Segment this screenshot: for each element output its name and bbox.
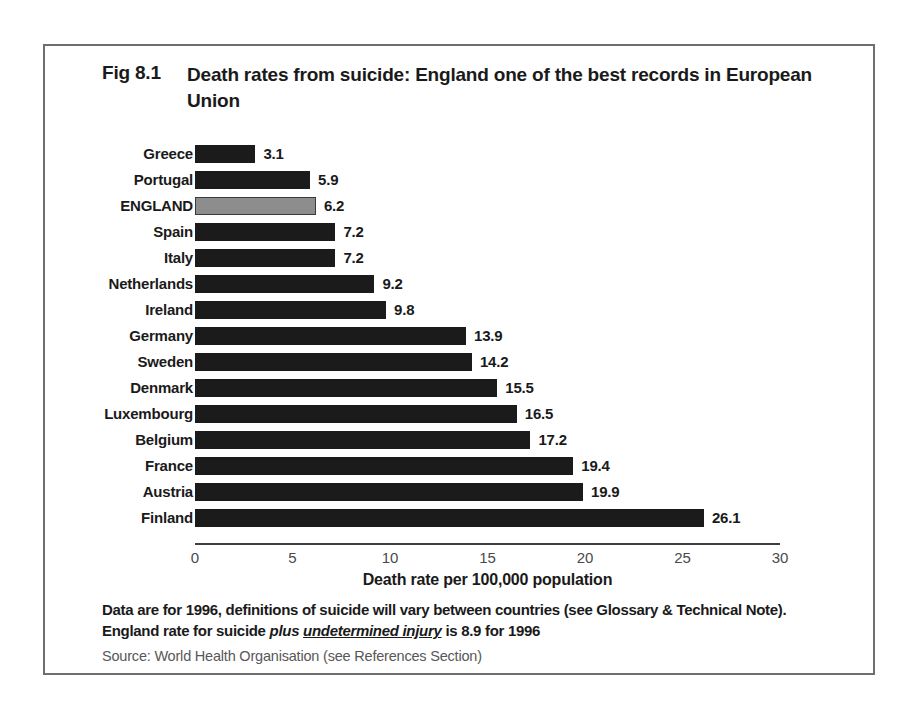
bar-row: Netherlands9.2 <box>45 273 877 299</box>
bar-row: Germany13.9 <box>45 325 877 351</box>
bar-value-label: 15.5 <box>505 379 533 397</box>
bar-value-label: 9.2 <box>382 275 402 293</box>
bar-value-label: 26.1 <box>712 509 740 527</box>
bar[interactable] <box>195 301 386 319</box>
bar-wrapper: 6.2 <box>195 197 344 215</box>
note-line-2-emphasis-underlined: undetermined injury <box>303 622 442 639</box>
note-line-2-part-a: England rate for suicide <box>102 622 270 639</box>
bar-wrapper: 7.2 <box>195 249 364 267</box>
note-line-1: Data are for 1996, definitions of suicid… <box>102 599 872 620</box>
category-label: Denmark <box>0 378 193 398</box>
category-label: Germany <box>0 326 193 346</box>
x-axis-ticks: 051015202530 <box>45 549 877 569</box>
bar-row: ENGLAND6.2 <box>45 195 877 221</box>
bar[interactable] <box>195 223 335 241</box>
bar-wrapper: 15.5 <box>195 379 534 397</box>
figure-title-block: Fig 8.1 Death rates from suicide: Englan… <box>102 62 862 113</box>
note-line-2-part-b: is 8.9 for 1996 <box>442 622 541 639</box>
bar-wrapper: 7.2 <box>195 223 364 241</box>
bar[interactable] <box>195 405 517 423</box>
figure-number: Fig 8.1 <box>102 62 187 84</box>
figure-frame: Fig 8.1 Death rates from suicide: Englan… <box>43 44 875 675</box>
bar-value-label: 17.2 <box>538 431 566 449</box>
source-line: Source: World Health Organisation (see R… <box>102 648 872 664</box>
bar-row: Belgium17.2 <box>45 429 877 455</box>
bar-value-label: 7.2 <box>343 223 363 241</box>
bar-wrapper: 19.9 <box>195 483 619 501</box>
category-label: Belgium <box>0 430 193 450</box>
category-label: Netherlands <box>0 274 193 294</box>
bar-value-label: 5.9 <box>318 171 338 189</box>
bar-row: France19.4 <box>45 455 877 481</box>
bar[interactable] <box>195 457 573 475</box>
category-label: Ireland <box>0 300 193 320</box>
category-label: Austria <box>0 482 193 502</box>
bar-wrapper: 17.2 <box>195 431 567 449</box>
bar-value-label: 9.8 <box>394 301 414 319</box>
figure-title: Death rates from suicide: England one of… <box>187 62 862 113</box>
x-axis-tick-label: 15 <box>479 549 496 566</box>
chart-plot-area: Greece3.1Portugal5.9ENGLAND6.2Spain7.2It… <box>45 142 877 542</box>
category-label: Finland <box>0 508 193 528</box>
bar-row: Austria19.9 <box>45 481 877 507</box>
bar-value-label: 6.2 <box>324 197 344 215</box>
x-axis-tick-label: 25 <box>674 549 691 566</box>
bar-value-label: 19.4 <box>581 457 609 475</box>
bar-wrapper: 26.1 <box>195 509 740 527</box>
bar[interactable] <box>195 197 316 215</box>
bar-value-label: 14.2 <box>480 353 508 371</box>
bar-row: Italy7.2 <box>45 247 877 273</box>
bar-value-label: 3.1 <box>263 145 283 163</box>
bar-wrapper: 13.9 <box>195 327 502 345</box>
category-label: Greece <box>0 144 193 164</box>
note-line-2-emphasis: plus <box>270 622 304 639</box>
bar-value-label: 19.9 <box>591 483 619 501</box>
bar[interactable] <box>195 431 530 449</box>
bar[interactable] <box>195 275 374 293</box>
category-label: France <box>0 456 193 476</box>
bar[interactable] <box>195 171 310 189</box>
x-axis-line <box>195 543 780 545</box>
bar[interactable] <box>195 509 704 527</box>
x-axis-tick-label: 20 <box>577 549 594 566</box>
category-label: Luxembourg <box>0 404 193 424</box>
bar-wrapper: 19.4 <box>195 457 610 475</box>
bar[interactable] <box>195 379 497 397</box>
category-label: Portugal <box>0 170 193 190</box>
bar[interactable] <box>195 353 472 371</box>
bar-row: Luxembourg16.5 <box>45 403 877 429</box>
bar[interactable] <box>195 249 335 267</box>
bar-row: Spain7.2 <box>45 221 877 247</box>
note-line-2: England rate for suicide plus undetermin… <box>102 620 872 641</box>
bar-row: Denmark15.5 <box>45 377 877 403</box>
bar[interactable] <box>195 145 255 163</box>
bar[interactable] <box>195 483 583 501</box>
bar-wrapper: 9.8 <box>195 301 414 319</box>
x-axis-tick-label: 10 <box>382 549 399 566</box>
bar-value-label: 13.9 <box>474 327 502 345</box>
figure-footnotes: Data are for 1996, definitions of suicid… <box>102 599 872 664</box>
category-label: ENGLAND <box>0 196 193 216</box>
bar-row: Finland26.1 <box>45 507 877 533</box>
bar-wrapper: 9.2 <box>195 275 403 293</box>
x-axis-tick-label: 30 <box>772 549 789 566</box>
x-axis-tick-label: 0 <box>191 549 199 566</box>
bar-row: Sweden14.2 <box>45 351 877 377</box>
x-axis-tick-label: 5 <box>288 549 296 566</box>
bar-row: Portugal5.9 <box>45 169 877 195</box>
bar-wrapper: 16.5 <box>195 405 553 423</box>
bar-wrapper: 5.9 <box>195 171 338 189</box>
bar-row: Greece3.1 <box>45 143 877 169</box>
bar-value-label: 7.2 <box>343 249 363 267</box>
bar-value-label: 16.5 <box>525 405 553 423</box>
bar-wrapper: 14.2 <box>195 353 508 371</box>
category-label: Italy <box>0 248 193 268</box>
category-label: Sweden <box>0 352 193 372</box>
x-axis-title: Death rate per 100,000 population <box>195 571 780 589</box>
bar-wrapper: 3.1 <box>195 145 284 163</box>
bar-row: Ireland9.8 <box>45 299 877 325</box>
category-label: Spain <box>0 222 193 242</box>
bar[interactable] <box>195 327 466 345</box>
